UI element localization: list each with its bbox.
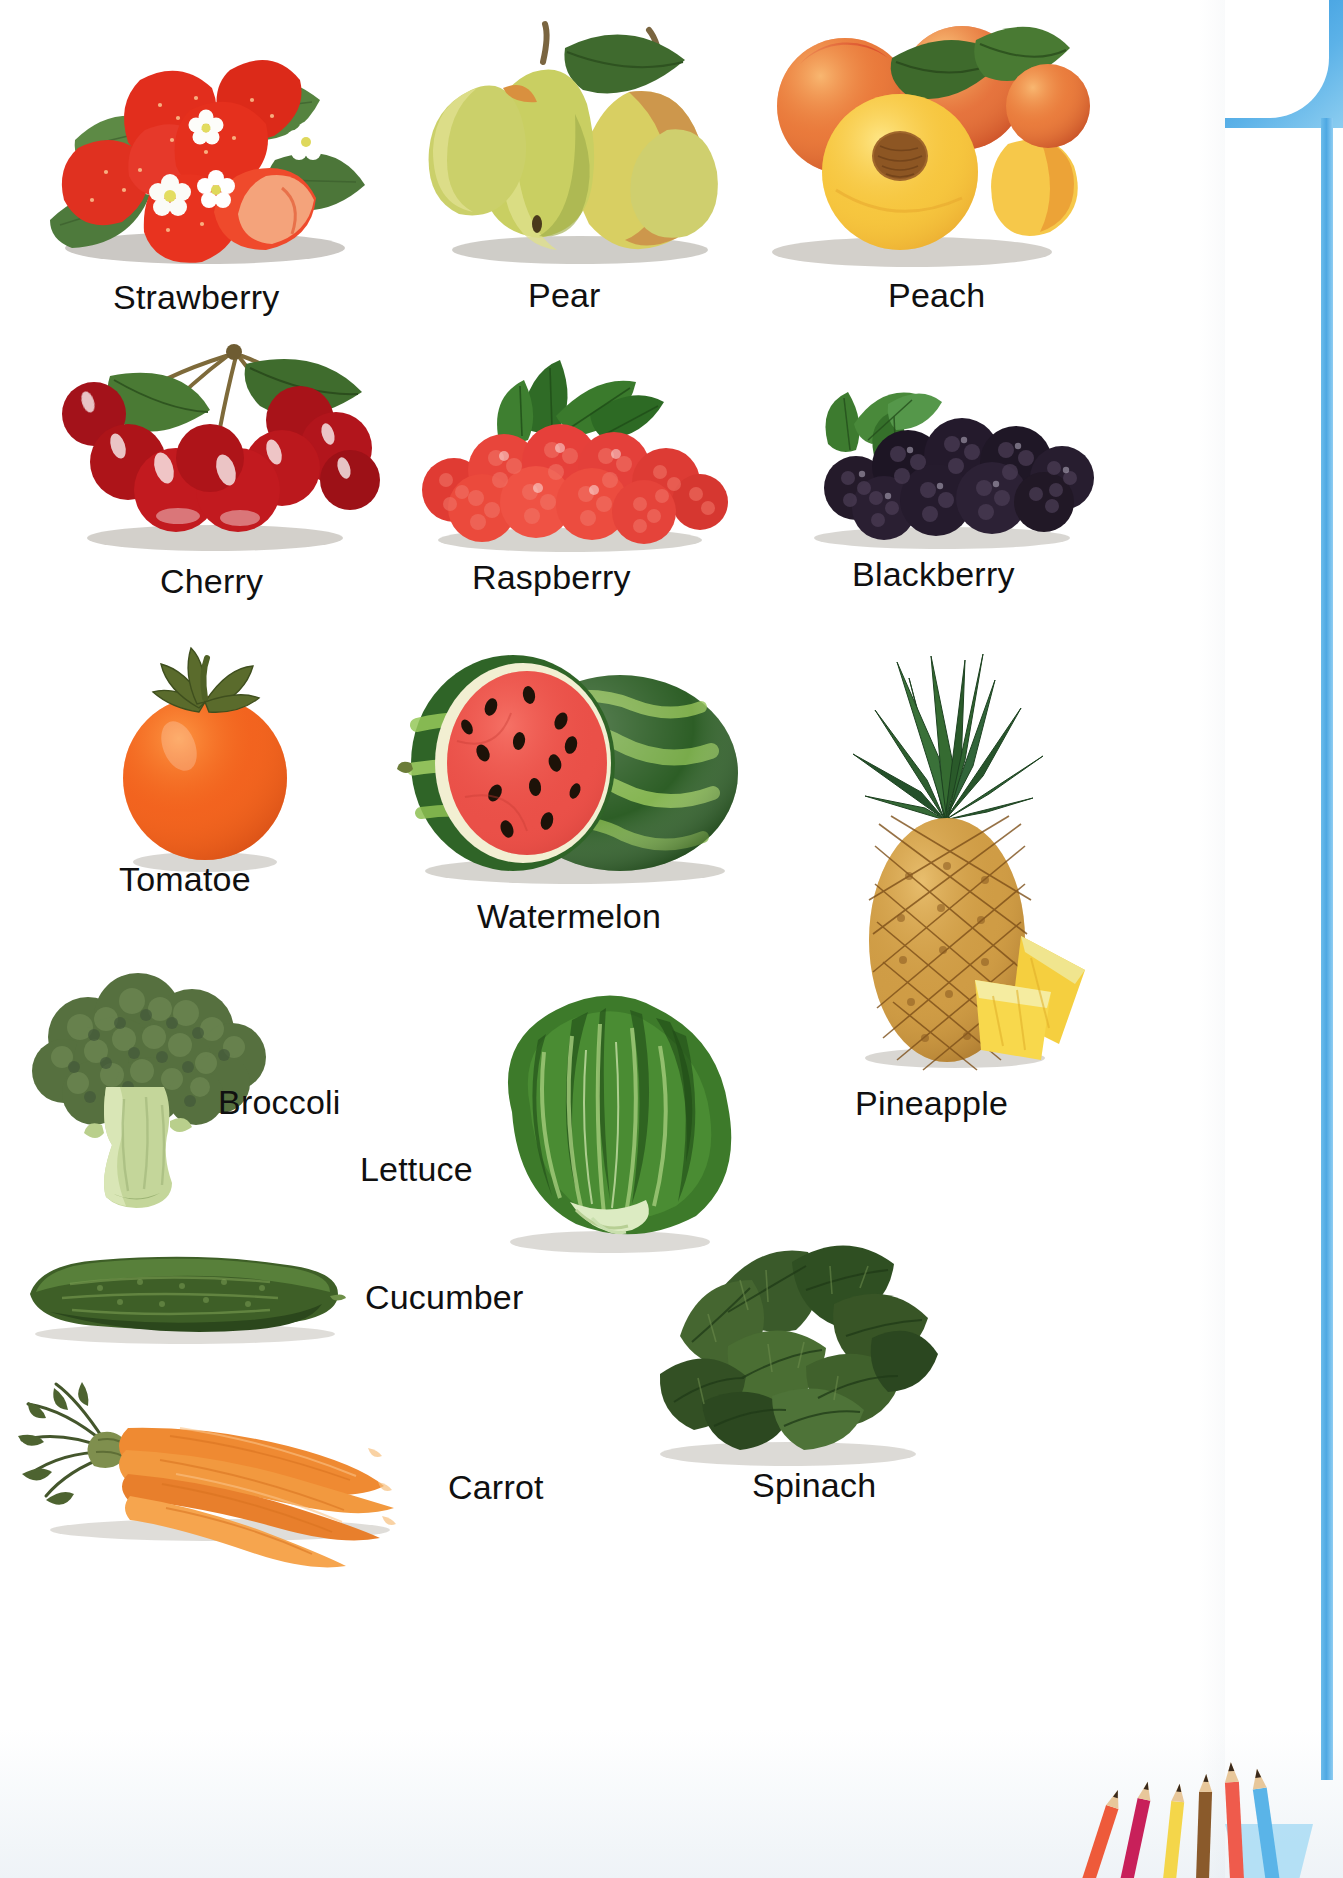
label-cherry: Cherry: [160, 562, 263, 601]
item-pear[interactable]: Pear: [415, 18, 735, 270]
label-lettuce: Lettuce: [360, 1150, 473, 1189]
label-tomatoe: Tomatoe: [119, 860, 251, 899]
pear-image: [415, 18, 735, 270]
blackberry-image: [770, 370, 1100, 550]
item-cucumber[interactable]: Cucumber: [10, 1238, 360, 1348]
cherry-image: [50, 340, 380, 555]
item-blackberry[interactable]: Blackberry: [770, 370, 1100, 550]
item-cherry[interactable]: Cherry: [50, 340, 380, 555]
pineapple-image: [835, 640, 1105, 1070]
watermelon-image: [395, 645, 745, 885]
item-watermelon[interactable]: Watermelon: [395, 645, 745, 885]
cucumber-image: [10, 1238, 360, 1348]
lettuce-image: [460, 990, 760, 1255]
page-edge-shadow: [1199, 0, 1225, 1878]
colored-pencils-decoration: [1075, 1790, 1343, 1878]
blue-corner-decoration: [1225, 0, 1343, 128]
picture-dictionary-page: Strawberry: [0, 0, 1343, 1878]
item-carrot[interactable]: Carrot: [10, 1378, 430, 1548]
label-watermelon: Watermelon: [477, 897, 661, 936]
item-pineapple[interactable]: Pineapple: [835, 640, 1105, 1070]
label-broccoli: Broccoli: [218, 1083, 341, 1122]
raspberry-image: [400, 358, 740, 554]
label-peach: Peach: [888, 276, 985, 315]
label-cucumber: Cucumber: [365, 1278, 523, 1317]
carrot-image: [10, 1378, 430, 1548]
label-spinach: Spinach: [752, 1466, 876, 1505]
item-tomatoe[interactable]: Tomatoe: [105, 650, 305, 875]
label-strawberry: Strawberry: [113, 278, 279, 317]
item-lettuce[interactable]: Lettuce: [460, 990, 760, 1255]
spinach-image: [620, 1218, 950, 1468]
item-peach[interactable]: Peach: [740, 14, 1090, 272]
peach-image: [740, 14, 1090, 272]
item-spinach[interactable]: Spinach: [620, 1218, 950, 1468]
label-blackberry: Blackberry: [852, 555, 1015, 594]
blue-side-rail-decoration: [1321, 118, 1333, 1780]
label-pineapple: Pineapple: [855, 1084, 1008, 1123]
label-carrot: Carrot: [448, 1468, 544, 1507]
item-raspberry[interactable]: Raspberry: [400, 358, 740, 554]
strawberry-image: [20, 20, 380, 270]
label-raspberry: Raspberry: [472, 558, 631, 597]
tomatoe-image: [105, 650, 305, 875]
label-pear: Pear: [528, 276, 601, 315]
item-strawberry[interactable]: Strawberry: [20, 20, 380, 270]
item-broccoli[interactable]: Broccoli: [20, 975, 270, 1205]
